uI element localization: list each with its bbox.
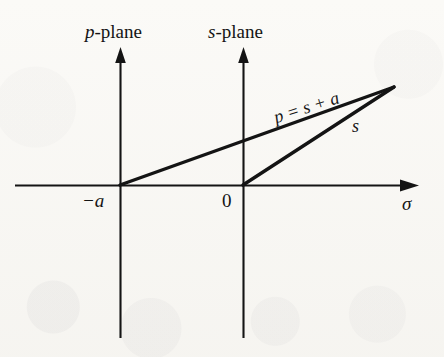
p-plane-title-suffix: -plane <box>95 21 142 42</box>
s-plane-title: s-plane <box>208 22 263 41</box>
tick-label-minus-a: −a <box>82 191 104 210</box>
sigma-axis <box>15 180 419 192</box>
figure-complex-plane-shift: p-plane s-plane p = s + a s −a 0 σ <box>0 0 444 357</box>
s-plane-title-suffix: -plane <box>215 21 262 42</box>
s-axis-arrowhead-icon <box>238 47 249 63</box>
vector-s-label: s <box>352 117 359 135</box>
sigma-axis-arrowhead-icon <box>400 180 419 192</box>
p-axis-arrowhead-icon <box>115 47 126 63</box>
p-plane-title: p-plane <box>85 22 142 41</box>
sigma-axis-label: σ <box>402 194 411 213</box>
s-axis <box>238 47 249 338</box>
diagram-canvas <box>0 0 444 357</box>
p-plane-title-variable: p <box>85 21 95 42</box>
tick-label-zero: 0 <box>222 191 232 210</box>
p-axis <box>115 47 126 338</box>
vector-p-line <box>120 87 394 185</box>
